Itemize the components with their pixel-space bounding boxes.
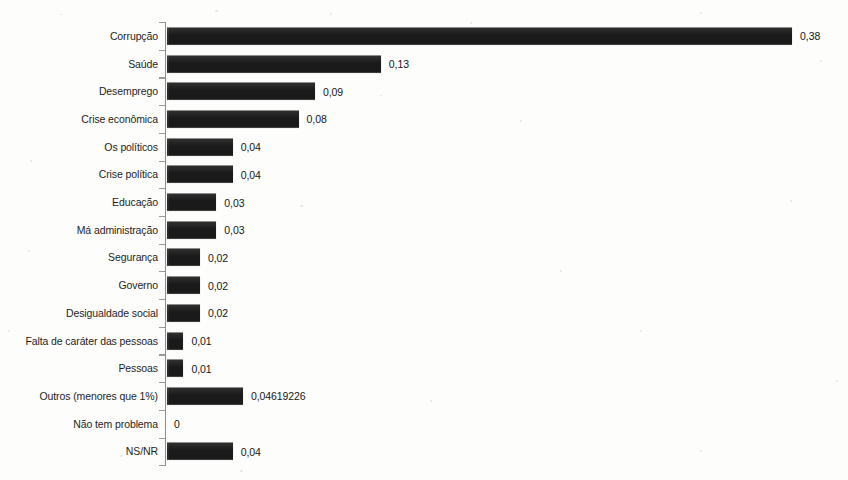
- bar-row: Crise política0,04: [0, 161, 848, 189]
- bar-and-value: 0,04: [167, 138, 261, 155]
- bar: [167, 166, 233, 183]
- bar: [167, 304, 200, 321]
- bar-row: Outros (menores que 1%)0,04619226: [0, 382, 848, 410]
- bar-value-label: 0,03: [224, 224, 244, 236]
- bar-and-value: 0,08: [167, 110, 327, 127]
- bar-value-label: 0,01: [191, 362, 211, 374]
- bar-row: Má administração0,03: [0, 216, 848, 244]
- bar-and-value: 0,01: [167, 360, 211, 377]
- speckle: [836, 380, 838, 382]
- bar: [167, 221, 216, 238]
- bar-and-value: 0,02: [167, 304, 228, 321]
- bar-row: Pessoas0,01: [0, 354, 848, 382]
- bar: [167, 194, 216, 211]
- bar-value-label: 0,09: [323, 85, 343, 97]
- bar-and-value: 0,01: [167, 332, 211, 349]
- speckle: [790, 200, 792, 202]
- category-label: Outros (menores que 1%): [39, 390, 158, 402]
- category-label: Governo: [118, 279, 158, 291]
- speckle: [820, 60, 822, 62]
- bar-row: NS/NR0,04: [0, 438, 848, 466]
- category-label: Desigualdade social: [66, 307, 158, 319]
- bar: [167, 27, 792, 44]
- speckle: [430, 400, 432, 402]
- bar-and-value: 0,02: [167, 277, 228, 294]
- bar-row: Desigualdade social0,02: [0, 299, 848, 327]
- bar-value-label: 0,04: [241, 168, 261, 180]
- speckle: [60, 14, 62, 15]
- bar-value-label: 0,38: [800, 30, 820, 42]
- speckle: [8, 330, 10, 332]
- speckle: [215, 10, 218, 12]
- speckle: [28, 250, 30, 252]
- bar-row: Saúde0,13: [0, 50, 848, 78]
- speckle: [700, 450, 702, 452]
- bar-value-label: 0,02: [208, 307, 228, 319]
- bar-row: Governo0,02: [0, 271, 848, 299]
- bar-and-value: 0,04619226: [167, 387, 305, 404]
- bar-value-label: 0,13: [389, 58, 409, 70]
- speckle: [640, 330, 642, 332]
- bar-and-value: 0,04: [167, 443, 261, 460]
- category-label: NS/NR: [126, 445, 158, 457]
- speckle: [380, 95, 382, 96]
- speckle: [560, 270, 562, 272]
- speckle: [30, 160, 32, 162]
- bar: [167, 443, 233, 460]
- category-label: Segurança: [108, 251, 158, 263]
- bar-value-label: 0,02: [208, 279, 228, 291]
- bar-and-value: 0: [167, 415, 180, 432]
- bar: [167, 83, 315, 100]
- category-label: Educação: [112, 196, 158, 208]
- speckle: [330, 13, 332, 15]
- bar-value-label: 0,04: [241, 445, 261, 457]
- speckle: [700, 12, 702, 14]
- category-label: Má administração: [77, 224, 158, 236]
- bar: [167, 277, 200, 294]
- bar-row: Falta de caráter das pessoas0,01: [0, 327, 848, 355]
- bar-value-label: 0,04619226: [251, 390, 305, 402]
- speckle: [120, 455, 122, 457]
- category-label: Os políticos: [104, 141, 158, 153]
- bar-row: Os políticos0,04: [0, 133, 848, 161]
- horizontal-bar-chart: Corrupção0,38Saúde0,13Desemprego0,09Cris…: [0, 0, 848, 480]
- category-label: Crise política: [99, 168, 158, 180]
- bar-row: Desemprego0,09: [0, 77, 848, 105]
- bar-and-value: 0,04: [167, 166, 261, 183]
- category-label: Falta de caráter das pessoas: [25, 335, 158, 347]
- bar-and-value: 0,09: [167, 83, 343, 100]
- bar-value-label: 0,04: [241, 141, 261, 153]
- bar-value-label: 0: [174, 418, 180, 430]
- category-label: Saúde: [128, 58, 158, 70]
- bar-value-label: 0,03: [224, 196, 244, 208]
- bar-and-value: 0,38: [167, 27, 820, 44]
- bar-value-label: 0,01: [191, 335, 211, 347]
- bar-and-value: 0,03: [167, 221, 244, 238]
- axis-tick: [159, 465, 165, 466]
- category-label: Não tem problema: [73, 418, 158, 430]
- speckle: [300, 205, 303, 207]
- bar: [167, 387, 243, 404]
- bar: [167, 249, 200, 266]
- bar-and-value: 0,03: [167, 194, 244, 211]
- bar-row: Não tem problema0: [0, 410, 848, 438]
- category-label: Pessoas: [118, 362, 158, 374]
- bar-row: Corrupção0,38: [0, 22, 848, 50]
- bar: [167, 110, 299, 127]
- bar-and-value: 0,02: [167, 249, 228, 266]
- bar: [167, 138, 233, 155]
- speckle: [520, 120, 522, 122]
- bar-row: Educação0,03: [0, 188, 848, 216]
- bar-row: Crise econômica0,08: [0, 105, 848, 133]
- bar-value-label: 0,08: [307, 113, 327, 125]
- bar: [167, 55, 381, 72]
- speckle: [470, 22, 472, 24]
- category-label: Desemprego: [99, 85, 158, 97]
- bar-value-label: 0,02: [208, 251, 228, 263]
- bar-and-value: 0,13: [167, 55, 409, 72]
- bar: [167, 332, 183, 349]
- category-label: Corrupção: [110, 30, 158, 42]
- bar-row: Segurança0,02: [0, 244, 848, 272]
- category-label: Crise econômica: [81, 113, 158, 125]
- plot-area: Corrupção0,38Saúde0,13Desemprego0,09Cris…: [0, 0, 848, 480]
